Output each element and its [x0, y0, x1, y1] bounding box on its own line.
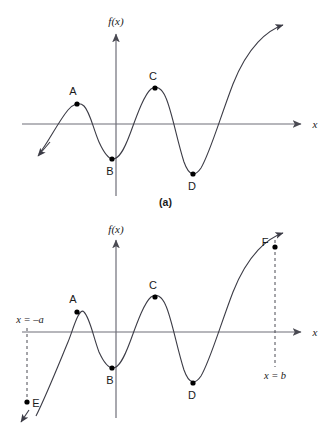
point-a-B — [109, 156, 114, 161]
caption-panel-a: (a) — [0, 196, 331, 208]
vline-label-x-eq-neg-a: x = –a — [15, 314, 44, 325]
y-axis-label-b: f(x) — [108, 224, 124, 236]
point-label-E-b: E — [32, 397, 39, 409]
function-curve-a — [39, 25, 283, 174]
point-a-D — [190, 171, 195, 176]
point-label-C-b: C — [149, 279, 157, 291]
y-axis-label-a: f(x) — [108, 15, 124, 28]
point-b-F — [272, 244, 277, 249]
point-a-A — [74, 101, 79, 106]
point-label-B-b: B — [106, 374, 113, 386]
curve-left-arrow-b — [21, 410, 29, 422]
point-label-B-a: B — [106, 165, 113, 177]
x-axis-label-a: x — [312, 118, 318, 130]
panel-b: A B C D E F x = –a x = b f(x) x (b) — [0, 224, 331, 448]
point-b-E — [24, 399, 29, 404]
point-a-C — [152, 85, 157, 90]
point-b-D — [190, 380, 195, 385]
point-b-B — [109, 365, 114, 370]
point-label-F-b: F — [262, 236, 269, 248]
point-b-C — [152, 294, 157, 299]
curve-left-arrow-a — [38, 142, 50, 156]
point-label-D-b: D — [188, 389, 196, 401]
point-b-A — [74, 309, 79, 314]
function-curve-b — [36, 233, 283, 416]
point-label-C-a: C — [149, 70, 157, 82]
vline-label-x-eq-b: x = b — [263, 370, 286, 381]
point-label-A-a: A — [69, 85, 77, 97]
panel-a: A B C D f(x) x (a) — [0, 0, 331, 224]
point-label-D-a: D — [188, 180, 196, 192]
x-axis-label-b: x — [312, 326, 318, 338]
point-label-A-b: A — [69, 293, 77, 305]
